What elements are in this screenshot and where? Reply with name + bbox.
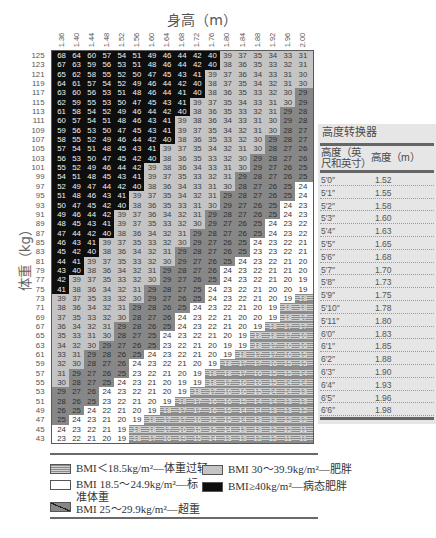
bmi-cell: 14: [280, 378, 295, 387]
bmi-cell: 28: [250, 172, 265, 181]
bmi-cell: 44: [160, 88, 175, 97]
weight-tick-label: 77: [21, 275, 45, 284]
bmi-cell: 15: [220, 415, 235, 424]
bmi-cell: 28: [175, 266, 190, 275]
bmi-cell: 27: [129, 331, 144, 340]
bmi-cell: 39: [144, 163, 159, 172]
bmi-cell: 15: [280, 369, 295, 378]
bmi-cell: 50: [52, 201, 69, 210]
bmi-cell: 54: [84, 107, 99, 116]
height-tick: 1.76: [205, 31, 220, 48]
weight-tick-label: 59: [21, 359, 45, 368]
bmi-cell: 64: [52, 79, 69, 88]
bmi-cell: 30: [84, 341, 99, 350]
bmi-row: 6158545249464442403836353332312928: [52, 107, 313, 116]
bmi-cell: 35: [144, 219, 159, 228]
height-tick-label: 1.92: [269, 32, 277, 47]
height-axis-title: 身高（m）: [148, 12, 256, 29]
bmi-cell: 17: [295, 313, 313, 322]
bmi-cell: 41: [160, 116, 175, 125]
bmi-cell: 47: [144, 70, 159, 79]
bmi-cell: 45: [129, 126, 144, 135]
converter-row: 6′3″1.90: [320, 365, 434, 378]
bmi-cell: 53: [69, 154, 84, 163]
weight-axis-ticks: 1251231211191171151131111091071051031019…: [21, 51, 45, 443]
bmi-cell: 13: [235, 434, 250, 443]
bmi-cell: 40: [190, 88, 205, 97]
bmi-cell: 24: [220, 266, 235, 275]
bmi-cell: 43: [69, 238, 84, 247]
bmi-cell: 16: [265, 359, 280, 368]
bmi-cell: 45: [69, 219, 84, 228]
bmi-cell: 34: [160, 210, 175, 219]
bmi-cell: 31: [129, 285, 144, 294]
bmi-cell: 20: [160, 387, 175, 396]
bmi-cell: 25: [129, 350, 144, 359]
height-tick: 1.96: [280, 31, 295, 48]
bmi-cell: 21: [144, 387, 159, 396]
converter-row: 5′5″1.65: [320, 237, 434, 250]
bmi-cell: 15: [265, 378, 280, 387]
bmi-cell: 23: [220, 294, 235, 303]
bmi-cell: 28: [69, 378, 84, 387]
bmi-cell: 27: [295, 135, 313, 144]
bmi-cell: 34: [220, 126, 235, 135]
bmi-cell: 18: [129, 425, 144, 434]
bmi-cell: 60: [52, 116, 69, 125]
bmi-cell: 56: [84, 88, 99, 97]
bmi-cell: 33: [220, 135, 235, 144]
bmi-cell: 35: [52, 331, 69, 340]
bmi-cell: 32: [114, 285, 129, 294]
bmi-row: 3028272524232120191918171616151414: [52, 378, 313, 387]
bmi-cell: 40: [205, 51, 220, 60]
bmi-cell: 42: [129, 163, 144, 172]
bmi-cell: 24: [114, 378, 129, 387]
bmi-cell: 23: [280, 229, 295, 238]
bmi-cell: 20: [295, 266, 313, 275]
bmi-cell: 27: [175, 275, 190, 284]
bmi-cell: 18: [265, 322, 280, 331]
bmi-cell: 18: [295, 303, 313, 312]
feet-inches-value: 6′1″: [321, 341, 335, 351]
weight-tick-label: 73: [21, 294, 45, 303]
bmi-cell: 29: [84, 350, 99, 359]
bmi-cell: 36: [205, 116, 220, 125]
bmi-cell: 25: [265, 210, 280, 219]
bmi-cell: 60: [69, 88, 84, 97]
bmi-cell: 44: [175, 60, 190, 69]
bmi-cell: 57: [99, 51, 114, 60]
bmi-cell: 54: [99, 79, 114, 88]
bmi-cell: 20: [160, 378, 175, 387]
bmi-cell: 15: [205, 415, 220, 424]
bmi-cell: 36: [235, 70, 250, 79]
bmi-cell: 17: [295, 322, 313, 331]
bmi-cell: 27: [220, 229, 235, 238]
bmi-cell: 18: [295, 294, 313, 303]
bmi-row: 3836343231292826252423222120191818: [52, 303, 313, 312]
bmi-row: 5956535047454341393735343231302827: [52, 126, 313, 135]
bmi-cell: 51: [129, 51, 144, 60]
bmi-cell: 28: [160, 285, 175, 294]
bmi-cell: 29: [160, 266, 175, 275]
bmi-cell: 54: [69, 144, 84, 153]
legend-label: BMI≥40kg/m²—病态肥胖: [228, 480, 347, 493]
bmi-cell: 36: [190, 135, 205, 144]
bmi-cell: 55: [69, 135, 84, 144]
bmi-cell: 29: [99, 341, 114, 350]
bmi-cell: 31: [84, 331, 99, 340]
bmi-cell: 20: [265, 285, 280, 294]
weight-tick-label: 65: [21, 331, 45, 340]
weight-tick-label: 71: [21, 303, 45, 312]
weight-tick-label: 79: [21, 266, 45, 275]
bmi-cell: 18: [235, 350, 250, 359]
bmi-cell: 14: [295, 378, 313, 387]
bmi-cell: 32: [250, 107, 265, 116]
bmi-cell: 31: [160, 247, 175, 256]
bmi-cell: 31: [99, 322, 114, 331]
bmi-cell: 17: [190, 406, 205, 415]
bmi-row: 2826252322212019181716161514141313: [52, 397, 313, 406]
meters-value: 1.90: [375, 367, 392, 377]
converter-row: 6′5″1.96: [320, 391, 434, 404]
bmi-row: 4340383634323129282726242322212120: [52, 266, 313, 275]
bmi-cell: 22: [280, 238, 295, 247]
